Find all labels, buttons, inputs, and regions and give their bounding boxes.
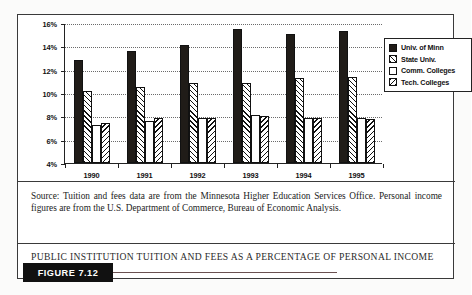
legend-swatch-icon xyxy=(389,67,397,75)
y-axis-label: 14% xyxy=(35,43,57,52)
bar-1990-comm-colleges xyxy=(92,125,101,164)
y-axis-tick xyxy=(61,47,65,48)
x-axis-label-1990: 1990 xyxy=(83,171,99,180)
x-axis-label-1994: 1994 xyxy=(295,171,311,180)
y-axis-label: 12% xyxy=(35,66,57,75)
y-axis-tick xyxy=(61,24,65,25)
bar-1993-univ-of-minn xyxy=(233,29,242,163)
bar-1990-univ-of-minn xyxy=(74,60,83,163)
y-axis-label: 8% xyxy=(35,113,57,122)
bar-1994-comm-colleges xyxy=(304,118,313,164)
x-axis-tick xyxy=(383,164,384,168)
source-note-text: Source: Tuition and fees data are from t… xyxy=(31,190,442,215)
gridline xyxy=(65,47,382,48)
y-axis-label: 4% xyxy=(35,160,57,169)
plot-area: 4%6%8%10%12%14%16%1990199119921993199419… xyxy=(64,24,382,164)
bar-1991-tech-colleges xyxy=(154,118,163,164)
gridline xyxy=(65,24,382,25)
y-axis-tick xyxy=(61,141,65,142)
legend-label: Tech. Colleges xyxy=(401,78,449,87)
chart-legend: Univ. of MinnState Univ.Comm. CollegesTe… xyxy=(384,38,472,92)
y-axis-tick xyxy=(61,94,65,95)
figure-number-label: FIGURE 7.12 xyxy=(38,268,99,278)
legend-swatch-icon xyxy=(389,55,397,63)
x-axis-label-1992: 1992 xyxy=(189,171,205,180)
bar-1995-state-univ xyxy=(348,77,357,163)
bar-1995-tech-colleges xyxy=(366,119,375,163)
x-axis-label-1995: 1995 xyxy=(348,171,364,180)
bar-1990-state-univ xyxy=(83,91,92,163)
x-axis-tick xyxy=(171,164,172,168)
figure-number-badge: FIGURE 7.12 xyxy=(23,263,113,282)
bar-1992-univ-of-minn xyxy=(180,45,189,163)
bar-1992-state-univ xyxy=(189,83,198,164)
y-axis-tick xyxy=(61,71,65,72)
x-axis-tick xyxy=(65,164,66,168)
gridline xyxy=(65,141,382,142)
badge-rule xyxy=(113,272,337,273)
x-axis-label-1991: 1991 xyxy=(136,171,152,180)
y-axis-tick xyxy=(61,117,65,118)
bar-1990-tech-colleges xyxy=(101,123,110,163)
legend-label: State Univ. xyxy=(401,55,436,64)
bar-1994-state-univ xyxy=(295,78,304,163)
legend-label: Univ. of Minn xyxy=(401,43,444,52)
bar-chart: 4%6%8%10%12%14%16%1990199119921993199419… xyxy=(18,15,455,181)
y-axis-label: 16% xyxy=(35,20,57,29)
figure-frame: 4%6%8%10%12%14%16%1990199119921993199419… xyxy=(17,14,454,279)
bar-1993-state-univ xyxy=(242,83,251,164)
legend-swatch-icon xyxy=(389,44,397,52)
figure-title: PUBLIC INSTITUTION TUITION AND FEES AS A… xyxy=(31,251,442,262)
legend-item-univ-of-minn: Univ. of Minn xyxy=(389,42,468,54)
bar-1993-tech-colleges xyxy=(260,116,269,163)
bar-1991-state-univ xyxy=(136,87,145,163)
bar-1992-tech-colleges xyxy=(207,118,216,164)
y-axis-label: 10% xyxy=(35,90,57,99)
bar-1995-comm-colleges xyxy=(357,118,366,164)
legend-swatch-icon xyxy=(389,78,397,86)
y-axis-label: 6% xyxy=(35,136,57,145)
bar-1993-comm-colleges xyxy=(251,115,260,163)
legend-label: Comm. Colleges xyxy=(401,66,455,75)
x-axis-tick xyxy=(277,164,278,168)
legend-item-tech-colleges: Tech. Colleges xyxy=(389,77,468,89)
x-axis-tick xyxy=(330,164,331,168)
legend-item-state-univ: State Univ. xyxy=(389,54,468,66)
source-note: Source: Tuition and fees data are from t… xyxy=(18,181,455,243)
x-axis-tick xyxy=(118,164,119,168)
bar-1991-univ-of-minn xyxy=(127,51,136,163)
x-axis-label-1993: 1993 xyxy=(242,171,258,180)
legend-item-comm-colleges: Comm. Colleges xyxy=(389,65,468,77)
bar-1995-univ-of-minn xyxy=(339,31,348,163)
gridline xyxy=(65,117,382,118)
gridline xyxy=(65,71,382,72)
bar-1992-comm-colleges xyxy=(198,118,207,164)
bar-1991-comm-colleges xyxy=(145,121,154,163)
bar-1994-tech-colleges xyxy=(313,118,322,163)
x-axis-tick xyxy=(224,164,225,168)
gridline xyxy=(65,94,382,95)
bar-1994-univ-of-minn xyxy=(286,34,295,164)
